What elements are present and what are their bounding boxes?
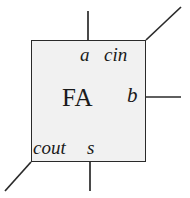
port-label-s: s (87, 138, 94, 157)
wire-cin (146, 7, 181, 40)
port-label-b: b (127, 85, 138, 106)
port-label-a: a (80, 45, 90, 64)
full-adder-diagram: a cin FA b cout s (0, 0, 190, 198)
port-label-cout: cout (33, 138, 66, 157)
wire-cout (5, 162, 31, 191)
diagram-canvas (0, 0, 190, 198)
port-label-cin: cin (104, 45, 127, 64)
block-label-fa: FA (62, 85, 93, 110)
